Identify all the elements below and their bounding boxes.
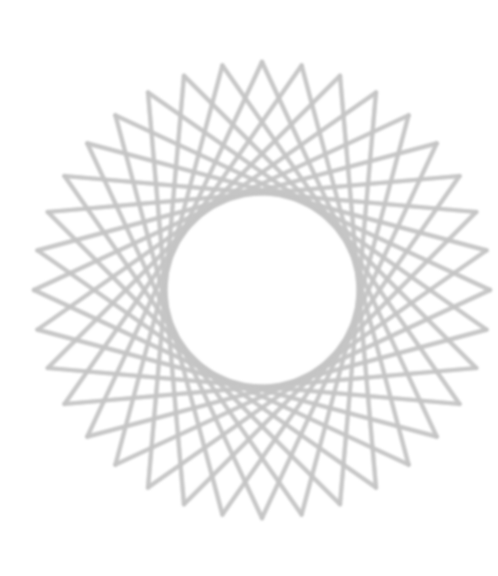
rosette-lines <box>34 62 490 518</box>
rosette-artwork <box>0 0 498 576</box>
